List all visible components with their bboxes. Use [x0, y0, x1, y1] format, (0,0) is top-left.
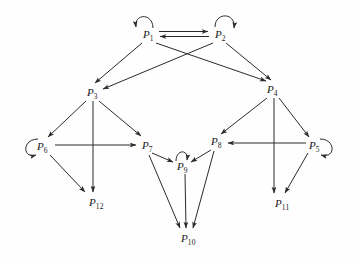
edge-p2-to-p3 [103, 43, 213, 89]
self-loop-p1 [136, 17, 153, 28]
edge-p7-to-p10 [149, 155, 180, 228]
node-label-subscript: 4 [274, 89, 278, 98]
node-label-subscript: 5 [316, 145, 320, 154]
edge-p8-to-p10 [193, 151, 214, 228]
node-label-subscript: 9 [184, 166, 188, 175]
node-label-base: P [211, 135, 218, 147]
edge-p3-to-p7 [99, 101, 141, 136]
node-label-subscript: 1 [150, 34, 154, 43]
node-p1[interactable]: P1 [143, 29, 154, 43]
node-p4[interactable]: P4 [267, 84, 278, 98]
node-label-subscript: 11 [282, 203, 290, 212]
node-label-base: P [275, 197, 282, 209]
edge-p8-to-p9 [191, 150, 211, 162]
node-label-subscript: 8 [218, 141, 222, 150]
node-p12[interactable]: P12 [89, 197, 104, 211]
node-label-subscript: 10 [188, 238, 196, 247]
node-p9[interactable]: P9 [177, 161, 188, 175]
node-p10[interactable]: P10 [181, 233, 196, 247]
node-p8[interactable]: P8 [211, 136, 222, 150]
node-label-subscript: 7 [149, 145, 153, 154]
edge-p7-to-p9 [152, 153, 173, 162]
node-label-subscript: 2 [222, 34, 226, 43]
node-label-base: P [181, 232, 188, 244]
edge-p4-to-p8 [221, 98, 267, 134]
node-label-base: P [37, 140, 44, 152]
edge-p1-to-p3 [95, 43, 142, 83]
graph-canvas: P1P2P3P4P5P6P7P8P9P10P11P12 [0, 0, 357, 262]
node-p3[interactable]: P3 [87, 87, 98, 101]
self-loop-p5 [320, 139, 332, 156]
node-label-base: P [143, 28, 150, 40]
node-label-subscript: 3 [94, 92, 98, 101]
node-label-base: P [267, 83, 274, 95]
node-p11[interactable]: P11 [275, 198, 290, 212]
node-label-subscript: 6 [44, 146, 48, 155]
node-p7[interactable]: P7 [142, 140, 153, 154]
node-label-base: P [89, 196, 96, 208]
edge-p9-to-p10 [185, 174, 186, 228]
edge-p4-to-p5 [279, 98, 309, 137]
node-label-base: P [215, 28, 222, 40]
edge-p6-to-p12 [50, 155, 85, 192]
node-p2[interactable]: P2 [215, 29, 226, 43]
self-loop-p2 [215, 16, 234, 28]
node-label-base: P [177, 160, 184, 172]
graph-edges-layer [0, 0, 357, 262]
node-label-subscript: 12 [96, 202, 104, 211]
edge-p3-to-p6 [48, 101, 86, 137]
edge-p5-to-p11 [285, 153, 308, 193]
node-label-base: P [142, 139, 149, 151]
node-p6[interactable]: P6 [37, 141, 48, 155]
node-p5[interactable]: P5 [309, 140, 320, 154]
node-label-base: P [87, 86, 94, 98]
node-label-base: P [309, 139, 316, 151]
